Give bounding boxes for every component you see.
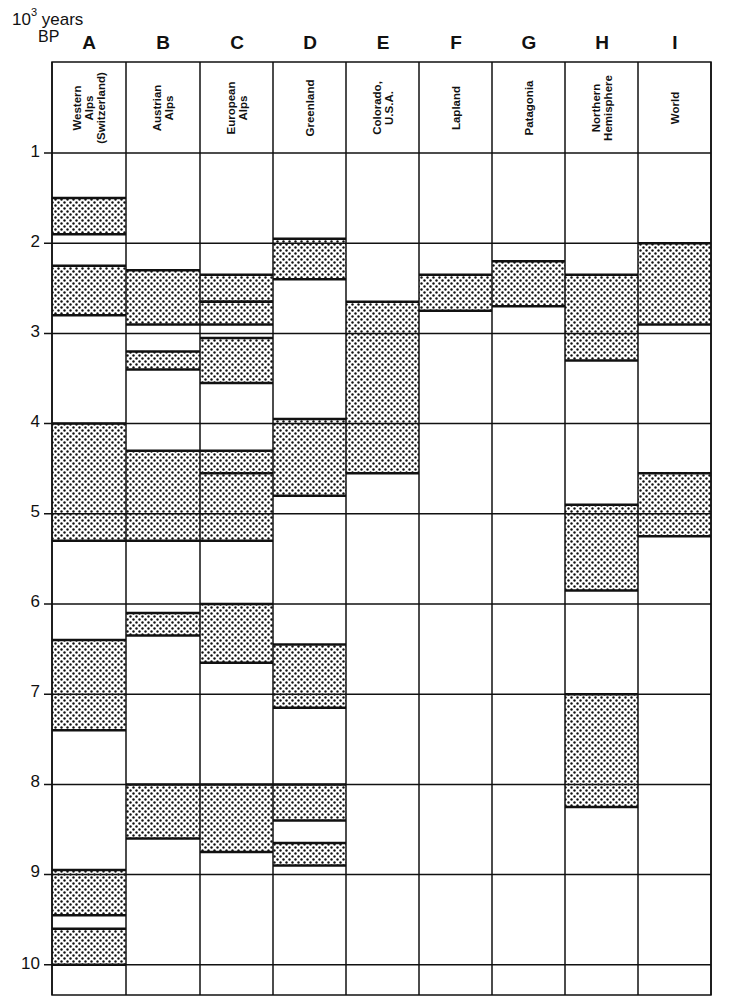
band-a <box>52 198 126 234</box>
band-d <box>273 843 346 866</box>
band-c <box>200 784 273 852</box>
band-i <box>638 473 711 536</box>
glacier-advance-chart: 103 years BP A B C D E F G H I Western A… <box>0 0 730 1005</box>
band-a <box>52 929 126 965</box>
band-c <box>200 604 273 663</box>
band-d <box>273 784 346 820</box>
band-c <box>200 338 273 383</box>
band-d <box>273 239 346 280</box>
band-b <box>126 270 200 324</box>
band-h <box>565 505 638 591</box>
band-c <box>200 302 273 325</box>
band-c <box>200 451 273 474</box>
band-b <box>126 784 200 838</box>
glacier-advance-bands <box>52 198 711 965</box>
band-a <box>52 424 126 541</box>
band-c <box>200 473 273 541</box>
band-d <box>273 645 346 708</box>
band-b <box>126 451 200 541</box>
band-b <box>126 351 200 369</box>
band-f <box>419 275 492 311</box>
band-e <box>346 302 419 473</box>
band-a <box>52 870 126 915</box>
band-a <box>52 640 126 730</box>
band-g <box>492 261 565 306</box>
band-i <box>638 243 711 324</box>
band-h <box>565 275 638 361</box>
band-a <box>52 266 126 316</box>
band-b <box>126 613 200 636</box>
band-c <box>200 275 273 302</box>
plot-area <box>0 0 730 1005</box>
band-d <box>273 419 346 496</box>
band-h <box>565 694 638 807</box>
